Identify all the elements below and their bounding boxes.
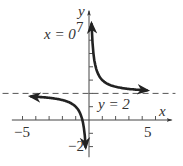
y-tick-label-7: 7 bbox=[76, 20, 84, 35]
horizontal-asymptote-label: y = 2 bbox=[98, 97, 130, 112]
plot-area bbox=[0, 0, 183, 166]
vertical-asymptote-label: x = 0 bbox=[44, 27, 76, 42]
x-axis-label: x bbox=[159, 104, 166, 119]
y-tick-label-neg2: −2 bbox=[68, 139, 84, 154]
y-axis-label: y bbox=[78, 4, 85, 19]
x-tick-label-5: 5 bbox=[144, 125, 152, 140]
graph: y x −5 5 7 −2 x = 0 y = 2 bbox=[0, 0, 183, 166]
x-tick-label-neg5: −5 bbox=[14, 125, 30, 140]
curve-right-branch bbox=[92, 23, 148, 90]
